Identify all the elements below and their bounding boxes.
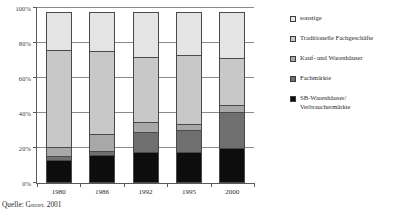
y-axis-tick xyxy=(33,147,37,148)
y-axis-tick-label: 60% xyxy=(19,75,31,82)
bar-1995[interactable] xyxy=(176,8,202,183)
x-axis-tick xyxy=(124,183,125,187)
bar-segment[interactable] xyxy=(219,12,245,59)
bar-1986[interactable] xyxy=(89,8,115,183)
bar-segment[interactable] xyxy=(219,112,245,149)
figure-container: 0%20%40%60%80%100% 19801986199219952000 … xyxy=(0,0,393,212)
x-axis-tick-label: 1980 xyxy=(52,188,66,196)
x-axis-tick xyxy=(167,183,168,187)
y-axis-tick xyxy=(33,112,37,113)
legend-item-3[interactable]: Fachmärkte xyxy=(290,74,393,83)
x-axis-tick-label: 2000 xyxy=(225,188,239,196)
legend-item-label: sonstige xyxy=(300,14,322,23)
bar-1980[interactable] xyxy=(46,8,72,183)
legend-item-label: Fachmärkte xyxy=(300,74,331,83)
y-axis-tick-label: 20% xyxy=(19,145,31,152)
bar-segment[interactable] xyxy=(133,132,159,153)
legend-item-4[interactable]: SB-Warenhäuser/ Verbrauchermärkte xyxy=(290,94,393,111)
y-axis-tick-label: 80% xyxy=(19,40,31,47)
source-caption: Quelle: Greipl 2001 xyxy=(2,200,61,209)
y-axis-tick-label: 40% xyxy=(19,110,31,117)
bar-segment[interactable] xyxy=(89,51,115,135)
bar-2000[interactable] xyxy=(219,8,245,183)
legend-item-label: Kauf- und Warenhäuser xyxy=(300,54,363,63)
y-axis-tick-label: 0% xyxy=(22,180,31,187)
source-prefix: Quelle: xyxy=(2,200,26,209)
x-axis-tick xyxy=(37,183,38,187)
legend-swatch-icon xyxy=(290,96,296,102)
bar-segment[interactable] xyxy=(89,155,115,183)
y-axis-tick xyxy=(33,77,37,78)
bar-segment[interactable] xyxy=(176,12,202,56)
legend-item-label: SB-Warenhäuser/ Verbrauchermärkte xyxy=(300,94,351,111)
bar-segment[interactable] xyxy=(133,57,159,124)
bar-segment[interactable] xyxy=(133,12,159,58)
plot-area: 0%20%40%60%80%100% 19801986199219952000 xyxy=(36,8,254,184)
legend-swatch-icon xyxy=(290,16,296,22)
legend-item-2[interactable]: Kauf- und Warenhäuser xyxy=(290,54,393,63)
bar-segment[interactable] xyxy=(89,134,115,152)
x-axis-tick xyxy=(254,183,255,187)
y-axis-tick-label: 100% xyxy=(15,5,31,12)
bar-segment[interactable] xyxy=(176,55,202,125)
bar-segment[interactable] xyxy=(219,148,245,183)
legend-swatch-icon xyxy=(290,56,296,62)
source-year: 2001 xyxy=(45,200,62,209)
source-author: Greipl xyxy=(26,200,45,209)
x-axis-tick-label: 1995 xyxy=(182,188,196,196)
legend: sonstigeTraditionelle FachgeschäfteKauf-… xyxy=(290,14,393,123)
y-axis-tick xyxy=(33,42,37,43)
bar-segment[interactable] xyxy=(46,12,72,51)
x-axis-tick-label: 1992 xyxy=(139,188,153,196)
legend-swatch-icon xyxy=(290,76,296,82)
legend-swatch-icon xyxy=(290,36,296,42)
plot-area-wrapper: 0%20%40%60%80%100% 19801986199219952000 xyxy=(0,0,285,212)
bar-segment[interactable] xyxy=(89,12,115,52)
bar-segment[interactable] xyxy=(176,130,202,153)
bar-segment[interactable] xyxy=(133,152,159,184)
legend-item-label: Traditionelle Fachgeschäfte xyxy=(300,34,373,43)
bar-segment[interactable] xyxy=(46,160,72,183)
bar-segment[interactable] xyxy=(176,152,202,184)
bar-segment[interactable] xyxy=(46,50,72,148)
y-axis-tick xyxy=(33,7,37,8)
bar-1992[interactable] xyxy=(133,8,159,183)
x-axis-tick-label: 1986 xyxy=(95,188,109,196)
legend-item-1[interactable]: Traditionelle Fachgeschäfte xyxy=(290,34,393,43)
bar-segment[interactable] xyxy=(219,58,245,105)
x-axis-tick xyxy=(80,183,81,187)
x-axis-tick xyxy=(211,183,212,187)
legend-item-0[interactable]: sonstige xyxy=(290,14,393,23)
